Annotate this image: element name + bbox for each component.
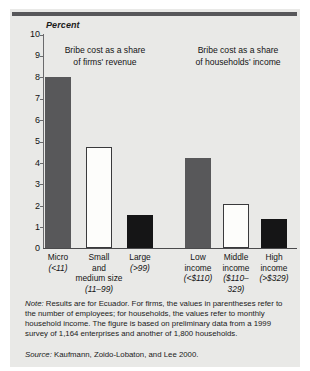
y-tick-mark-3 [40,184,43,185]
bar-large [127,215,153,248]
x-label-large-name: Large [129,252,150,262]
x-label-middle-line1: Middle [224,252,249,262]
y-tick-label-9: 9 [22,51,40,60]
chart-title-firms-line1: Bribe cost as a share [65,45,146,55]
x-label-large-range: (>99) [130,263,150,273]
chart-title-households: Bribe cost as a share of households' inc… [173,45,303,68]
y-tick-mark-7 [40,99,43,100]
x-label-small-line2: and [92,263,106,273]
x-label-high-range: (>$329) [259,273,288,283]
x-label-middle-range1: ($110– [223,273,248,283]
y-tick-mark-6 [40,120,43,121]
x-label-large: Large (>99) [116,252,164,273]
figure-bribe-cost: Percent 10 9 8 7 6 5 4 3 2 1 0 Bribe cos… [0,0,310,371]
x-label-high-line2: income [261,263,288,273]
chart-title-households-line2: of households' income [195,57,280,67]
x-label-high-line1: High [265,252,282,262]
figure-note-text: Results are for Ecuador. For firms, the … [25,299,282,338]
x-label-small-line1: Small [89,252,110,262]
x-label-high-income: High income (>$329) [250,252,298,284]
y-tick-label-1: 1 [22,223,40,232]
chart-title-firms-line2: of firms' revenue [73,57,136,67]
y-tick-label-3: 3 [22,180,40,189]
figure-note: Note: Results are for Ecuador. For firms… [25,299,293,339]
y-tick-mark-1 [40,227,43,228]
chart-title-firms: Bribe cost as a share of firms' revenue [42,45,168,68]
y-tick-mark-8 [40,77,43,78]
chart-title-households-line1: Bribe cost as a share [198,45,279,55]
x-label-middle-line2: income [223,263,250,273]
bar-high-income [261,219,287,248]
y-tick-label-4: 4 [22,159,40,168]
x-label-small-line3: medium size [75,273,122,283]
y-tick-label-10: 10 [22,30,40,39]
x-label-micro-range: (<11) [48,263,67,273]
y-tick-label-7: 7 [22,94,40,103]
y-axis-unit-label: Percent [46,20,80,30]
figure-note-lead: Note: [25,299,44,308]
x-label-low-line1: Low [190,252,205,262]
y-tick-mark-5 [40,142,43,143]
bar-small-medium [86,147,112,248]
x-axis-line [43,248,297,249]
x-label-low-line2: income [185,263,212,273]
figure-source: Source: Kaufmann, Zoido-Lobaton, and Lee… [25,350,293,360]
figure-source-lead: Source: [25,350,52,359]
y-tick-mark-4 [40,163,43,164]
y-tick-label-8: 8 [22,73,40,82]
x-label-micro-name: Micro [48,252,68,262]
figure-source-text: Kaufmann, Zoido-Lobaton, and Lee 2000. [52,350,199,359]
bar-micro [45,77,71,248]
y-tick-label-2: 2 [22,202,40,211]
y-tick-mark-2 [40,206,43,207]
y-tick-label-5: 5 [22,137,40,146]
y-tick-mark-10 [40,35,43,36]
y-tick-label-6: 6 [22,116,40,125]
bar-middle-income [223,204,249,248]
bar-low-income [185,158,211,248]
x-label-middle-range2: 329) [228,284,245,294]
x-label-low-range: (<$110) [184,273,212,283]
x-label-small-range: (11–99) [85,284,113,294]
